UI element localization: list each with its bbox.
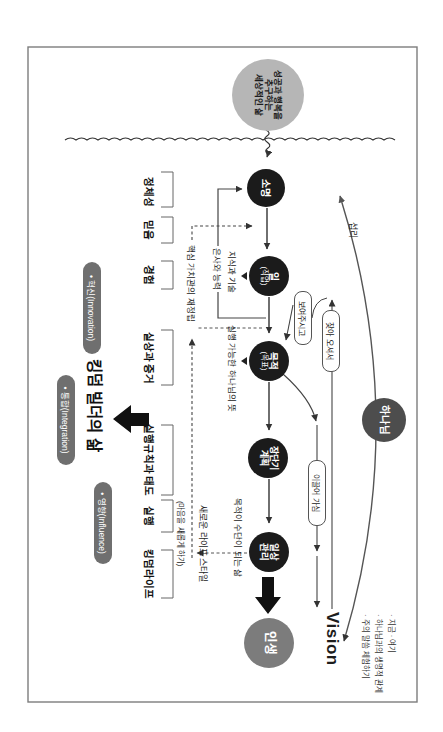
worldly-life-circle: 성공과 행복을 추구하는 세상적인 삶 [232,59,304,131]
bullet-now-here: · 지금 · 여기 [385,614,398,693]
wavy-separator [65,138,395,140]
label-evidence-text: 실상과 증거 [143,332,155,385]
renew-mind-annotation: (마음을 새롭게 하기) [176,501,187,566]
label-experience-text: 경험 [143,265,155,285]
calling-circle: 소명 [247,169,285,207]
influence-badge-text: • 영향(Influence) [97,492,109,554]
label-rules-text: 실행규칙과 태도 [143,424,155,497]
providence-annotation: 섭리 [347,222,360,238]
worldly-life-line3: 세상적인 삶 [254,74,263,116]
label-kingdom-life: 킹덤라이프 [142,546,157,602]
integration-badge: • 통합(Integration) [57,375,75,465]
knowledge-text: 지식과 기술 [227,251,237,293]
thick-arrow-daily-life [255,577,281,614]
life-label: 인생 [262,631,276,655]
work-label: 일 [268,272,279,281]
daily-label2: 관리 [259,543,269,561]
plan-label1: 장단기 [268,446,278,470]
show-pill-label: 보여주시고 [298,301,309,336]
label-evidence: 실상과 증거 [142,325,157,391]
label-identity: 정체성 [142,166,157,218]
come-find-pill: 찾아 오셔서 [322,310,340,372]
life-bullets: · 지금 · 여기 · 하나님과의 생명적 관계 · 주의 말씀 체험하기 [359,614,398,693]
vision-text: Vision [322,612,342,666]
purpose-label: 목적 [268,352,278,370]
gods-will-text: 실행 가능한 하나님의 뜻 [227,325,237,412]
new-lifestyle-text: 새로운 라이프 스타일 [198,505,208,582]
label-practice-text: 실행 [143,506,155,526]
gods-will-annotation: 실행 가능한 하나님의 뜻 [227,325,239,412]
innovation-badge-text: • 혁신(Innovation) [86,275,98,341]
work-annotation-pointer [241,272,247,280]
bullet-experience-word: · 주의 말씀 체험하기 [359,614,372,693]
label-identity-text: 정체성 [143,177,155,207]
kingdom-builder-text: 킹덤 빌더의 삶 [86,359,103,452]
life-circle: 인생 [244,618,294,668]
show-pill: 보여주시고 [294,291,312,345]
knowledge-annotation: 지식과 기술 [227,251,239,293]
purpose-circle: 목적 (목표) [249,341,289,381]
new-lifestyle-annotation: 새로운 라이프 스타일 [197,505,210,582]
renew-mind-text: (마음을 새롭게 하기) [176,501,185,566]
lead-pill: 이끌어 가심 [308,460,326,526]
purpose-means-text: 목적이 수단이 되는 삶 [233,498,243,577]
daily-label1: 일상 [269,543,279,561]
plan-label2: 계획 [258,450,268,466]
label-faith: 믿음 [142,212,157,248]
label-faith-text: 믿음 [143,220,155,240]
vision-label: Vision [323,612,342,666]
values-loop-dashed-left [192,226,252,240]
plan-circle: 장단기 계획 [248,438,288,478]
worldly-life-line1: 성공과 행복을 [273,70,282,120]
calling-label: 소명 [261,179,272,197]
lead-pill-label: 이끌어 가심 [312,474,323,511]
core-values-text: 핵심 가치관의 재정립 [186,245,196,322]
bullet-living-relationship: · 하나님과의 생명적 관계 [372,614,385,693]
label-experience: 경험 [142,257,157,293]
integration-badge-text: • 통합(Integration) [60,386,72,453]
label-kingdom-life-text: 킹덤라이프 [143,549,155,599]
influence-badge: • 영향(Influence) [94,482,112,564]
god-circle: 하나님 [362,398,406,442]
label-brackets [161,172,173,598]
screenshot-root: { "diagram": { "world_circle": {"line1":… [0,0,443,732]
worldly-life-line2: 추구하는 [263,79,272,111]
show-to-purpose-arrow [286,305,293,340]
world-to-calling-arrow [265,130,270,157]
work-sublabel: (직업) [259,267,267,286]
work-circle: 일 (직업) [249,256,289,296]
gifts-text: 은사와 능력 [212,248,222,290]
purpose-annotation-pointer [241,357,247,365]
core-values-annotation: 핵심 가치관의 재정립 [186,243,198,324]
purpose-means-annotation: 목적이 수단이 되는 삶 [233,498,245,577]
come-find-pill-label: 찾아 오셔서 [326,322,337,359]
god-label: 하나님 [378,405,390,435]
purpose-sublabel: (목표) [260,352,268,371]
kingdom-builder-title: 킹덤 빌더의 삶 [85,359,107,452]
gifts-annotation: 은사와 능력 [212,246,224,292]
lead-curve [283,374,316,421]
providence-text: 섭리 [348,222,358,238]
daily-circle: 일상 관리 [249,532,289,572]
rotated-diagram-stage: 성공과 행복을 추구하는 세상적인 삶 소명 일 (직업) 목적 (목표) 장단… [0,0,443,732]
label-rules: 실행규칙과 태도 [142,420,157,500]
label-practice: 실행 [142,498,157,534]
innovation-badge: • 혁신(Innovation) [83,262,101,354]
gifts-loop-line [218,189,266,318]
